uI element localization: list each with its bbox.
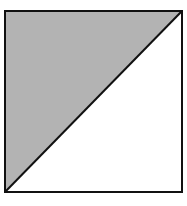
diagram-canvas bbox=[0, 0, 187, 206]
